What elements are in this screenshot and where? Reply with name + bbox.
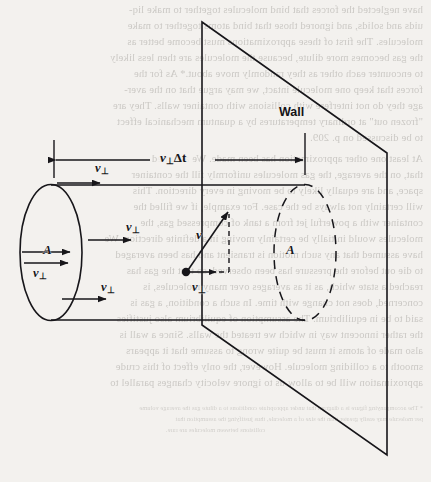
perp-label: v⊥ (101, 281, 115, 295)
dimension-subscript: ⊥ (166, 156, 174, 166)
kinetic-theory-diagram (0, 0, 431, 482)
scanned-figure-page: have neglected the forces that bind mole… (0, 0, 431, 482)
dimension-label: v⊥Δt (157, 150, 189, 166)
perp-label: v⊥ (33, 267, 47, 281)
perp-label: v⊥ (192, 281, 206, 295)
cylinder-right-face (274, 185, 336, 321)
wall-label: Wall (279, 105, 304, 119)
velocity-vector-label: v (196, 228, 202, 242)
perp-label: v⊥ (126, 221, 140, 235)
area-label-right: A (286, 243, 295, 256)
perp-label: v⊥ (95, 162, 109, 176)
area-label-left: A (43, 243, 52, 256)
perp-velocity-arrows (24, 183, 131, 299)
dimension-rest: Δt (174, 150, 186, 165)
wall-shape (202, 22, 387, 455)
molecule-velocity-vector (182, 212, 229, 276)
